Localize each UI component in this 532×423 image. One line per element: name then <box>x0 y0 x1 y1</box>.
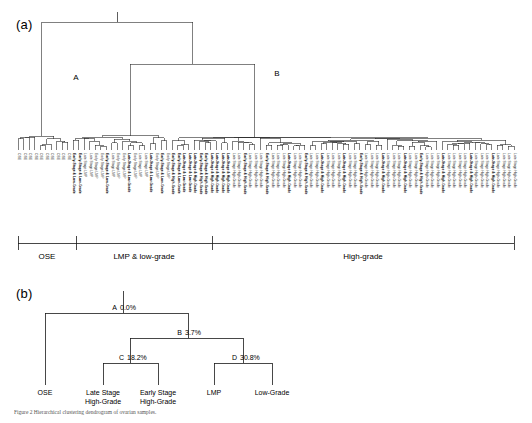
tree-leaf-late-high-line1: Late Stage <box>86 389 120 397</box>
dendrogram-leaf-label: Late-Stage & High-Grade <box>320 153 324 193</box>
dendrogram-leaf-label: Late Stage LMP <box>83 153 87 178</box>
tree-leaf-late-high-line2: High-Grade <box>85 398 121 406</box>
dendrogram-leaf-label: OSE <box>17 153 21 161</box>
dendrogram-leaf-label: Early Stage LMP <box>100 153 104 179</box>
dendrogram-leaf-label: Late-Stage & High-Grade <box>215 153 219 193</box>
dendrogram-leaf-label: Late-Stage & Low-Grade <box>127 153 131 192</box>
dendrogram-leaf-label: Late Stage High-Grade <box>276 153 280 188</box>
dendrogram-leaf-label: OSE <box>23 153 27 161</box>
group-axis-bracket <box>18 236 514 250</box>
summary-tree-panel-b: A 0.0% B 3.7% C 18.2% D 30.8% OSE Late S… <box>0 285 532 410</box>
dendrogram-node-letters: AB <box>73 69 279 82</box>
dendrogram-leaf-label: Late Stage LMP <box>138 153 142 178</box>
tree-leaf-lmp: LMP <box>207 389 222 396</box>
dendrogram-leaf-label: Late-Stage & High-Grade <box>210 153 214 193</box>
dendrogram-leaf-label: Late Stage LMP <box>89 153 93 178</box>
dendrogram-leaf-label: Early-Stage & Low-Grade <box>177 153 181 194</box>
axis-group-label: OSE <box>39 252 56 261</box>
dendrogram-leaf-label: Late Stage High-Grade <box>386 153 390 188</box>
dendrogram-leaf-label: Late-Stage & High-Grade <box>491 153 495 193</box>
dendrogram-leaf-label: Early Stage LMP <box>94 153 98 179</box>
dendrogram-leaf-label: Early-Stage & High-Grade <box>265 153 269 195</box>
tree-node-c-letter: C <box>119 354 124 361</box>
dendrogram-leaf-label: Late-Stage & High-Grade <box>403 153 407 193</box>
dendrogram-leaf-label: Late Stage High-Grade <box>485 153 489 188</box>
tree-node-b-letter: B <box>177 329 182 336</box>
dendrogram-leaf-label: Late Stage High-Grade <box>430 153 434 188</box>
axis-group-label: High-grade <box>343 252 383 261</box>
dendrogram-leaf-label: Early-Stage & High-Grade <box>419 153 423 195</box>
dendrogram-leaf-label: Late Stage High-Grade <box>463 153 467 188</box>
dendrogram-leaf-label: Late Stage High-Grade <box>507 153 511 188</box>
dendrogram-leaf-label: Late Stage High-Grade <box>271 153 275 188</box>
dendrogram-leaf-label: Late Stage High-Grade <box>326 153 330 188</box>
dendrogram-leaf-label: Early Stage LMP <box>166 153 170 179</box>
dendrogram-leaf-label: OSE <box>34 153 38 161</box>
axis-group-label: LMP & low-grade <box>113 252 175 261</box>
dendrogram-leaf-label: OSE <box>56 153 60 161</box>
dendrogram-leaf-label: Late-Stage & High-Grade <box>226 153 230 193</box>
dendrogram-leaf-label: Late-Stage & Low-Grade <box>182 153 186 192</box>
group-axis-labels: OSELMP & low-gradeHigh-grade <box>39 252 384 261</box>
dendrogram-leaf-label: Early-Stage & High-Grade <box>171 153 175 195</box>
dendrogram-leaf-label: Late Stage High-Grade <box>232 153 236 188</box>
dendrogram-leaf-label: Late Stage High-Grade <box>480 153 484 188</box>
tree-leaf-ose: OSE <box>38 389 53 396</box>
dendrogram-leaf-label: Late-Stage & Low-Grade <box>149 153 153 192</box>
dendrogram-leaf-label: Late-Stage & High-Grade <box>381 153 385 193</box>
dendrogram-node-letter-b: B <box>274 69 279 78</box>
dendrogram-leaf-label: Late-Stage & High-Grade <box>193 153 197 193</box>
dendrogram-leaf-label: Early Stage LMP <box>133 153 137 179</box>
dendrogram-leaf-label: Late Stage High-Grade <box>474 153 478 188</box>
dendrogram-leaf-label: Late Stage High-Grade <box>408 153 412 188</box>
dendrogram-leaf-label: Late Stage High-Grade <box>414 153 418 188</box>
dendrogram-leaf-label: Late-Stage & Low-Grade <box>188 153 192 192</box>
dendrogram-leaf-label: Late Stage High-Grade <box>397 153 401 188</box>
dendrogram-panel-a: OSEOSEOSEOSEOSEOSEOSEOSEOSEOSEEarly-Stag… <box>0 0 532 270</box>
dendrogram-leaf-label: Late Stage High-Grade <box>425 153 429 188</box>
tree-node-a-value: 0.0% <box>120 304 136 311</box>
tree-leaf-early-high-line1: Early Stage <box>140 389 176 397</box>
dendrogram-leaf-label: Late Stage High-Grade <box>392 153 396 188</box>
dendrogram-leaf-label: Early-Stage & High-Grade <box>359 153 363 195</box>
dendrogram-leaf-label: Late Stage High-Grade <box>364 153 368 188</box>
dendrogram-links <box>18 12 514 150</box>
tree-node-b-value: 3.7% <box>185 329 201 336</box>
dendrogram-leaf-label: Late Stage High-Grade <box>452 153 456 188</box>
dendrogram-leaf-label: Late Stage High-Grade <box>447 153 451 188</box>
dendrogram-leaf-label: Early-Stage & High-Grade <box>243 153 247 195</box>
tree-node-d-value: 30.8% <box>240 354 260 361</box>
dendrogram-leaf-label: Late-Stage & High-Grade <box>342 153 346 193</box>
dendrogram-leaf-label: Early Stage LMP <box>116 153 120 179</box>
dendrogram-leaf-label: Late Stage High-Grade <box>502 153 506 188</box>
dendrogram-leaf-label: Late Stage High-Grade <box>298 153 302 188</box>
dendrogram-leaf-label: Early-Stage & Low-Grade <box>78 153 82 194</box>
dendrogram-leaf-label: Late Stage High-Grade <box>436 153 440 188</box>
figure-caption: Figure 2 Hierarchical clustering dendrog… <box>14 409 524 421</box>
figure-root: (a) (b) OSEOSEOSEOSEOSEOSEOSEOSEOSEOSEEa… <box>0 0 532 423</box>
dendrogram-leaf-label: Early-Stage & High-Grade <box>199 153 203 195</box>
dendrogram-node-letter-a: A <box>73 73 79 82</box>
dendrogram-leaf-label: Late Stage High-Grade <box>259 153 263 188</box>
dendrogram-leaf-label: Late-Stage & High-Grade <box>469 153 473 193</box>
dendrogram-leaf-label: Late-Stage & High-Grade <box>221 153 225 193</box>
dendrogram-leaf-label: Early-Stage & Low-Grade <box>72 153 76 194</box>
dendrogram-leaf-label: Late Stage High-Grade <box>513 153 517 188</box>
dendrogram-leaf-label: OSE <box>67 153 71 161</box>
dendrogram-leaf-label: Late Stage High-Grade <box>337 153 341 188</box>
dendrogram-leaf-label: Early Stage LMP <box>155 153 159 179</box>
dendrogram-leaf-label: OSE <box>39 153 43 161</box>
dendrogram-leaf-label: Late Stage High-Grade <box>348 153 352 188</box>
tree-node-d-letter: D <box>232 354 237 361</box>
dendrogram-leaf-label: OSE <box>45 153 49 161</box>
dendrogram-leaf-label: Late-Stage & High-Grade <box>287 153 291 193</box>
tree-node-a-letter: A <box>112 304 117 311</box>
dendrogram-leaf-label: OSE <box>28 153 32 161</box>
dendrogram-leaf-label: Late Stage High-Grade <box>282 153 286 188</box>
dendrogram-leaf-label: Late Stage High-Grade <box>331 153 335 188</box>
dendrogram-leaf-label: Early-Stage & High-Grade <box>204 153 208 195</box>
dendrogram-leaf-label: Late Stage High-Grade <box>370 153 374 188</box>
tree-leaf-low-grade: Low-Grade <box>255 389 290 396</box>
dendrogram-leaf-labels: OSEOSEOSEOSEOSEOSEOSEOSEOSEOSEEarly-Stag… <box>17 153 517 195</box>
dendrogram-leaf-label: Early-Stage & Low-Grade <box>105 153 109 194</box>
